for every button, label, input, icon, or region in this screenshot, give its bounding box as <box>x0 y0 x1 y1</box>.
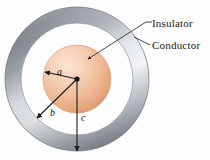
center-point <box>74 76 79 81</box>
radius-label-a: a <box>57 66 62 77</box>
physics-diagram-figure: Insulator Conductor a b c <box>0 0 210 160</box>
radius-label-b: b <box>50 107 55 118</box>
label-conductor: Conductor <box>152 39 200 51</box>
label-insulator: Insulator <box>152 17 193 29</box>
radius-label-c: c <box>81 112 85 123</box>
